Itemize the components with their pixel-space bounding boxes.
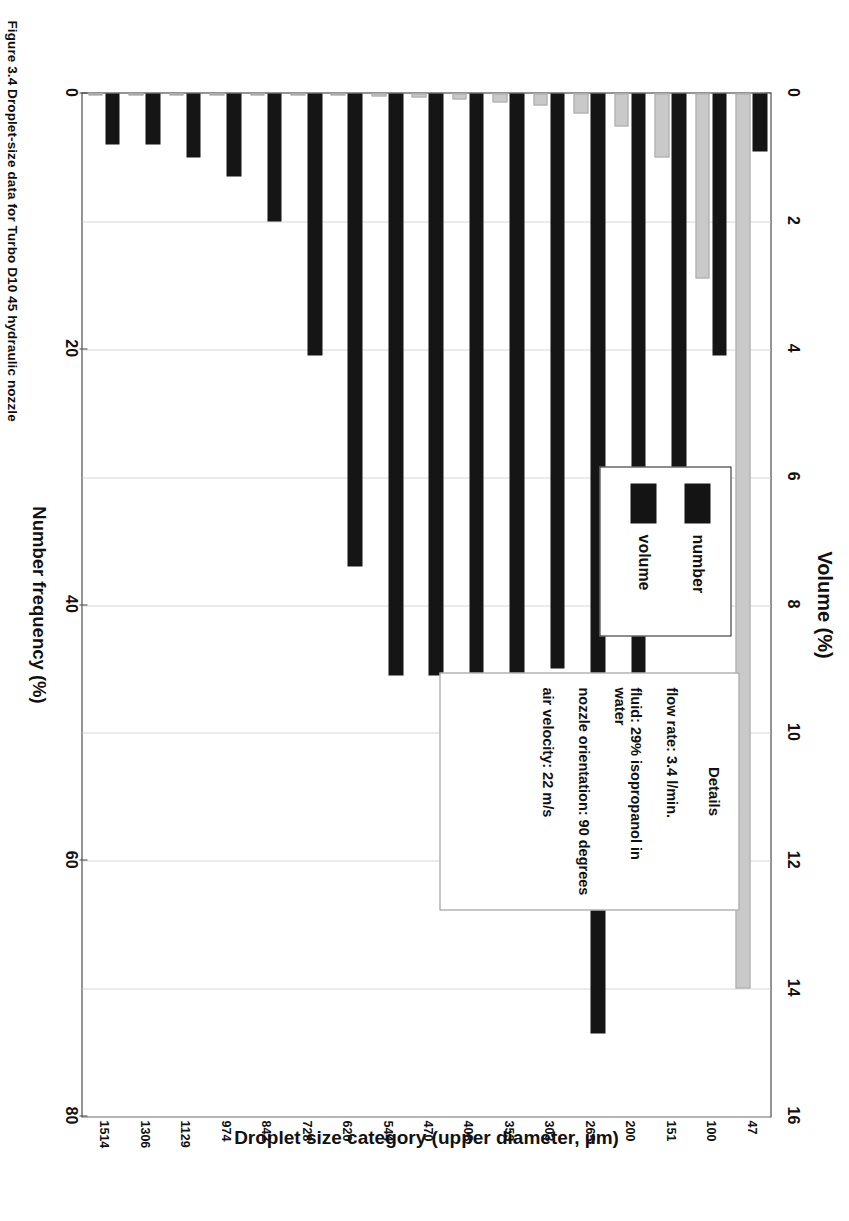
legend-label-number: number [688, 534, 706, 593]
bar-group [244, 93, 284, 1116]
top-axis-tick-0: 0 [783, 88, 801, 97]
bar-volume-544 [388, 93, 403, 675]
bar-group [163, 93, 203, 1116]
bar-volume-470 [428, 93, 443, 675]
bar-number-265 [573, 93, 588, 113]
details-heading: Details [705, 687, 722, 895]
figure-caption: Figure 3.4 Droplet-size data for Turbo D… [4, 20, 19, 1150]
legend-swatch-volume-icon [630, 483, 656, 523]
bar-number-470 [411, 93, 426, 97]
bar-volume-47 [752, 93, 767, 151]
bar-number-100 [695, 93, 710, 278]
details-line-flow-rate: flow rate: 3.4 l/min. [662, 687, 679, 895]
top-axis-tick-14: 14 [783, 978, 801, 996]
top-axis-title: Volume (%) [812, 92, 835, 1117]
bar-number-1514 [88, 93, 103, 95]
bar-number-974 [209, 93, 224, 95]
bar-group [82, 93, 122, 1116]
category-axis-title: Droplet size category (upper diameter, µ… [81, 1118, 771, 1156]
bar-group [203, 93, 243, 1116]
bottom-axis-tickmark [79, 348, 87, 349]
bar-volume-303 [550, 93, 565, 668]
details-line-fluid: fluid: 29% isopropanol in water [610, 687, 643, 895]
bottom-axis-tick-80: 80 [61, 1106, 79, 1124]
legend: number volume [599, 466, 731, 636]
bottom-axis-tickmark [79, 859, 87, 860]
bottom-axis-tick-20: 20 [61, 339, 79, 357]
bar-group [527, 93, 567, 1116]
bar-group [325, 93, 365, 1116]
bar-volume-728 [307, 93, 322, 355]
bar-number-408 [452, 93, 467, 99]
bar-group [730, 93, 770, 1116]
bar-number-200 [614, 93, 629, 126]
bar-volume-408 [469, 93, 484, 720]
bar-volume-353 [509, 93, 524, 707]
bar-number-1129 [169, 93, 184, 95]
bar-volume-974 [226, 93, 241, 176]
legend-swatch-number-icon [684, 483, 710, 523]
category-axis-title-text: Droplet size category (upper diameter, µ… [234, 1126, 619, 1148]
bar-number-620 [331, 93, 346, 95]
top-axis-tick-8: 8 [783, 599, 801, 608]
rotated-canvas: Volume (%) 0246810121416 020406080 Numbe… [0, 0, 849, 1221]
bar-volume-1306 [145, 93, 160, 144]
bar-number-151 [654, 93, 669, 157]
details-box: Details flow rate: 3.4 l/min. fluid: 29%… [439, 672, 739, 910]
top-axis-tick-16: 16 [783, 1106, 801, 1124]
bar-volume-620 [348, 93, 363, 566]
bar-group [487, 93, 527, 1116]
bar-group [284, 93, 324, 1116]
bar-number-303 [533, 93, 548, 105]
bar-number-353 [492, 93, 507, 102]
bar-volume-1514 [105, 93, 120, 144]
bar-volume-100 [712, 93, 727, 355]
details-line-nozzle-orientation: nozzle orientation: 90 degrees [574, 687, 591, 895]
bottom-axis-tick-40: 40 [61, 595, 79, 613]
bar-number-842 [250, 93, 265, 95]
top-axis: 0246810121416 [771, 92, 801, 1117]
bottom-axis-tick-60: 60 [61, 850, 79, 868]
bottom-axis: 020406080 [49, 92, 79, 1117]
details-line-air-velocity: air velocity: 22 m/s [539, 687, 556, 895]
bar-group [446, 93, 486, 1116]
bar-group [365, 93, 405, 1116]
bar-volume-1129 [186, 93, 201, 157]
top-axis-tick-4: 4 [783, 343, 801, 352]
bar-number-728 [290, 93, 305, 95]
bar-group [406, 93, 446, 1116]
legend-entry-number: number [684, 483, 710, 593]
bar-volume-842 [267, 93, 282, 221]
top-axis-tick-10: 10 [783, 722, 801, 740]
bottom-axis-tickmark [79, 1115, 87, 1116]
top-axis-tick-6: 6 [783, 471, 801, 480]
legend-label-volume: volume [634, 534, 652, 590]
top-axis-tick-2: 2 [783, 215, 801, 224]
figure-stage: Volume (%) 0246810121416 020406080 Numbe… [0, 0, 849, 1221]
bottom-axis-tickmark [79, 92, 87, 93]
bottom-axis-tickmark [79, 604, 87, 605]
bottom-axis-tick-0: 0 [61, 88, 79, 97]
top-axis-tick-12: 12 [783, 850, 801, 868]
bar-number-1306 [128, 93, 143, 95]
bar-group [122, 93, 162, 1116]
bottom-axis-title: Number frequency (%) [27, 92, 49, 1117]
legend-entry-volume: volume [630, 483, 656, 590]
chart-figure: Volume (%) 0246810121416 020406080 Numbe… [0, 0, 849, 1221]
bar-number-544 [371, 93, 386, 96]
